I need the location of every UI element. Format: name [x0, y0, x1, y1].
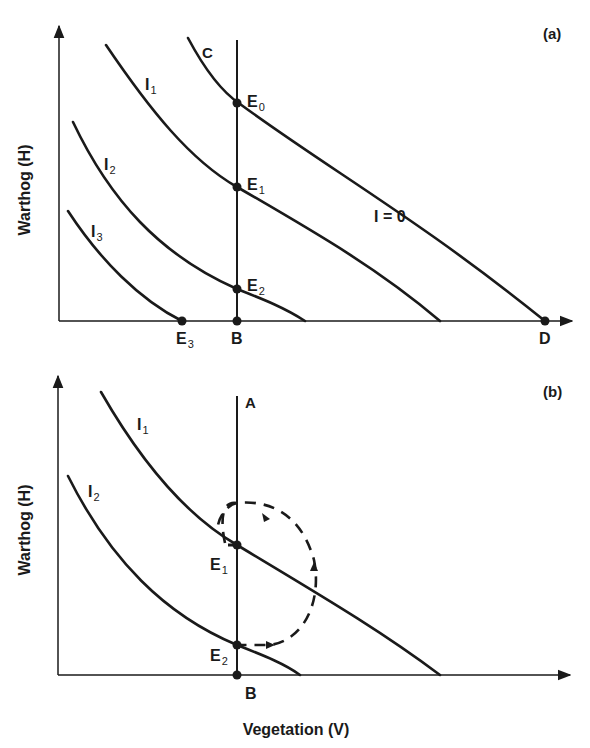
cycle-arrow-right — [310, 562, 318, 571]
point-b-b — [233, 671, 242, 680]
panel-a-tag: (a) — [543, 25, 561, 42]
y-axis-label-b: Warthog (H) — [16, 485, 33, 576]
curve-i1-b — [101, 392, 440, 675]
label-i-zero: I = 0 — [374, 208, 406, 225]
dashed-cycle-top-left — [218, 503, 237, 525]
label-i2-b: I2 — [88, 483, 100, 503]
cycle-arrow-bottom — [266, 641, 275, 649]
label-b-b: B — [245, 685, 257, 702]
point-b-a — [233, 317, 242, 326]
curve-i2-a — [73, 122, 305, 321]
label-d: D — [539, 330, 551, 347]
label-e3: E3 — [176, 330, 194, 350]
point-e2-a — [233, 285, 242, 294]
point-d — [541, 317, 550, 326]
point-e3 — [178, 317, 187, 326]
label-e2-b: E2 — [210, 647, 228, 667]
curve-c-zero — [188, 38, 545, 321]
label-b-a: B — [231, 330, 243, 347]
point-e0 — [233, 99, 242, 108]
label-i1-a: I1 — [145, 76, 157, 96]
label-a: A — [245, 394, 256, 411]
panel-b: (b) Warthog (H) Vegetation (V) A I1 I2 E… — [16, 376, 570, 738]
panel-a: (a) Warthog (H) C I = 0 I1 I2 I3 E0 E1 E… — [16, 25, 572, 350]
cycle-arrow-top — [262, 513, 270, 522]
panel-b-tag: (b) — [543, 383, 562, 400]
point-e2-b — [233, 641, 242, 650]
warthog-vegetation-diagram: (a) Warthog (H) C I = 0 I1 I2 I3 E0 E1 E… — [0, 0, 590, 748]
label-e1-b: E1 — [210, 556, 228, 576]
label-c: C — [202, 44, 213, 61]
curve-i3-a — [68, 211, 182, 321]
label-i1-b: I1 — [137, 416, 149, 436]
point-e1-b — [233, 541, 242, 550]
y-axis-label-a: Warthog (H) — [16, 145, 33, 236]
point-e1-a — [233, 183, 242, 192]
label-i3-a: I3 — [91, 223, 103, 243]
x-axis-label: Vegetation (V) — [243, 721, 350, 738]
label-i2-a: I2 — [104, 156, 116, 176]
